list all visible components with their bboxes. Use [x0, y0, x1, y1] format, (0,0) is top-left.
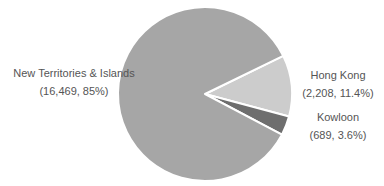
label-name: New Territories & Islands — [4, 64, 144, 82]
label-name: Hong Kong — [296, 66, 380, 84]
label-kowloon: Kowloon (689, 3.6%) — [296, 108, 380, 144]
label-detail: (2,208, 11.4%) — [296, 84, 380, 102]
label-detail: (16,469, 85%) — [4, 82, 144, 100]
label-new-territories: New Territories & Islands (16,469, 85%) — [4, 64, 144, 100]
label-name: Kowloon — [296, 108, 380, 126]
label-hong-kong: Hong Kong (2,208, 11.4%) — [296, 66, 380, 102]
label-detail: (689, 3.6%) — [296, 126, 380, 144]
